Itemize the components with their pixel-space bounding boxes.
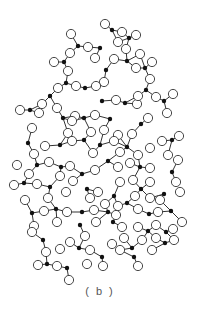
silicon-atom [48,185,52,189]
oxygen-atom [163,150,172,159]
oxygen-atom [53,83,62,92]
oxygen-atom [39,206,48,215]
silicon-atom [138,165,142,169]
silicon-atom [110,28,114,32]
oxygen-atom [67,136,76,145]
silicon-atom [132,255,136,259]
oxygen-atom [93,187,102,196]
oxygen-atom [71,81,80,90]
oxygen-atom [151,233,160,242]
oxygen-atom [115,177,124,186]
silicon-atom [139,187,143,191]
oxygen-atom [91,81,100,90]
silicon-atom [26,141,30,145]
oxygen-atom [133,204,142,213]
silicon-atom [59,165,63,169]
oxygen-atom [9,180,18,189]
oxygen-atom [133,150,142,159]
silicon-atom [78,223,82,227]
oxygen-atom [55,171,64,180]
silicon-atom [123,101,127,105]
oxygen-atom [117,27,126,36]
oxygen-atom [173,155,182,164]
oxygen-atom [82,259,91,268]
silicon-atom [111,220,115,224]
silicon-atom [22,181,26,185]
oxygen-atom [99,125,108,134]
oxygen-atom [131,30,140,39]
oxygen-atom [151,92,160,101]
silicon-atom [54,207,58,211]
oxygen-atom [177,217,186,226]
silicon-atom [106,159,110,163]
silicon-atom [143,66,147,70]
silicon-atom [83,86,87,90]
oxygen-atom [133,222,142,231]
oxygen-atom [133,261,142,270]
silicon-atom [58,143,62,147]
oxygen-atom [61,187,70,196]
silicon-atom [64,81,68,85]
oxygen-atom [40,141,49,150]
silicon-atom [170,170,174,174]
oxygen-atom [80,231,89,240]
oxygen-atom [20,195,29,204]
silicon-atom [35,163,39,167]
oxygen-atom [145,193,154,202]
oxygen-atom [33,260,42,269]
oxygen-atom [90,165,99,174]
silicon-atom [125,145,129,149]
oxygen-atom [64,275,73,284]
silicon-atom [100,255,104,259]
silicon-atom [125,59,129,63]
silicon-atom [41,238,45,242]
silicon-atom [82,138,86,142]
oxygen-atom [174,131,183,140]
oxygen-atom [111,210,120,219]
oxygen-atom [15,105,24,114]
oxygen-atom [37,99,46,108]
silicon-atom [106,210,110,214]
oxygen-atom [168,89,177,98]
oxygen-atom [157,136,166,145]
silicon-atom [125,201,129,205]
oxygen-atom [65,237,74,246]
oxygen-atom [119,233,128,242]
silicon-atom [146,229,150,233]
oxygen-atom [66,29,75,38]
oxygen-atom [52,103,61,112]
oxygen-atom [135,49,144,58]
silicon-atom [62,60,66,64]
oxygen-atom [131,63,140,72]
oxygen-atom [127,129,136,138]
silicon-atom [82,116,86,120]
oxygen-atom [143,113,152,122]
oxygen-atom [169,235,178,244]
silicon-atom [164,230,168,234]
oxygen-atom [109,54,118,63]
oxygen-atom [55,244,64,253]
silicon-atom [77,246,81,250]
oxygen-atom [68,176,77,185]
oxygen-atom [52,217,61,226]
oxygen-atom [27,227,36,236]
oxygen-atom [63,66,72,75]
oxygen-atom [113,201,122,210]
silicon-atom [108,117,112,121]
oxygen-atom [147,245,156,254]
silicon-atom [147,212,151,216]
oxygen-atom [41,247,50,256]
oxygen-atom [115,147,124,156]
oxygen-atom [86,127,95,136]
silicon-atom [144,88,148,92]
oxygen-atom [153,207,162,216]
figure-label: ( b ) [0,285,200,297]
oxygen-atom [12,160,21,169]
oxygen-atom [90,110,99,119]
silicon-atom [170,138,174,142]
oxygen-atom [49,57,58,66]
silicon-atom [100,99,104,103]
oxygen-atom [145,74,154,83]
oxygen-atom [111,95,120,104]
silicon-atom [45,262,49,266]
